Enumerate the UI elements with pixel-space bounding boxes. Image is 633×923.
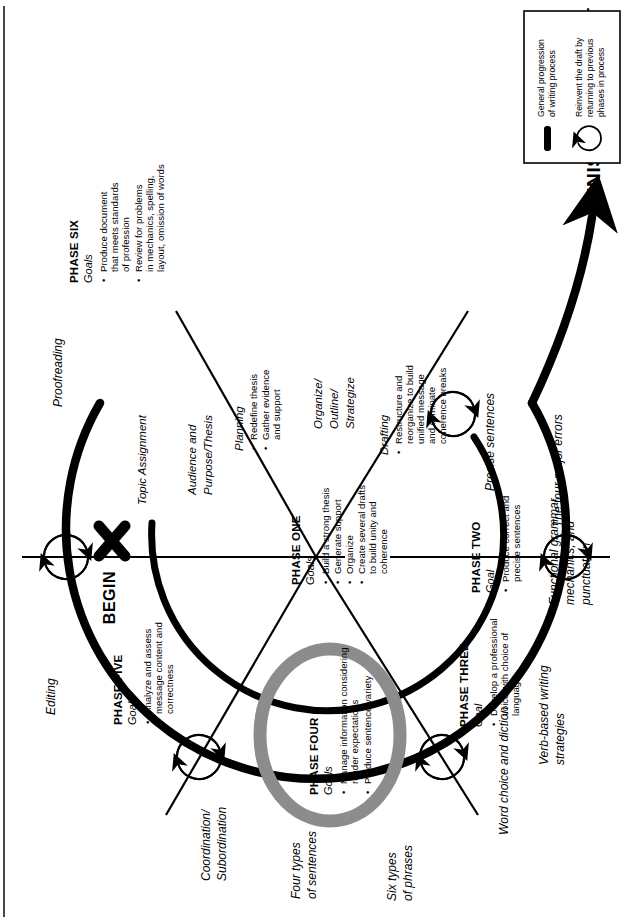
svg-text:coherence breaks: coherence breaks <box>437 368 448 444</box>
legend-item-progression-text: General progression of writing process <box>536 39 557 117</box>
svg-text:returning to previous: returning to previous <box>585 39 595 117</box>
writing-process-diagram: BEGIN FINISHED PRODUCT <box>0 0 633 923</box>
phase-three-title: PHASE THREE <box>458 643 470 727</box>
svg-text:unified message: unified message <box>415 374 426 444</box>
legend-item-reinvent-text: Reinvent the draft by returning to previ… <box>574 37 606 117</box>
drafting-bullets: •Restructure and reorganize to build uni… <box>393 365 448 454</box>
svg-text:•: • <box>362 791 373 794</box>
svg-text:Six types: Six types <box>385 852 399 901</box>
svg-text:reorganize to build: reorganize to build <box>404 365 415 444</box>
four-types-of-sentences-label: Four types of sentences <box>289 831 319 899</box>
begin-label: BEGIN <box>101 571 118 624</box>
svg-text:voice with choice of: voice with choice of <box>499 632 510 716</box>
thick-line-icon <box>544 126 551 151</box>
svg-text:of profession: of profession <box>120 217 131 272</box>
svg-text:•: • <box>338 791 349 794</box>
the-four-major-errors-label: The four major errors <box>551 414 565 527</box>
svg-text:of sentences: of sentences <box>305 831 319 899</box>
drafting-label: Drafting <box>378 414 390 455</box>
svg-text:Restructure and: Restructure and <box>393 376 404 444</box>
topic-assignment-label: Topic Assignment <box>136 414 148 505</box>
drafting-block: Drafting •Restructure and reorganize to … <box>378 365 448 455</box>
svg-text:Produce sentence variety: Produce sentence variety <box>362 676 373 784</box>
svg-text:•: • <box>133 279 144 282</box>
phase-six-goal-heading: Goals <box>82 254 94 283</box>
phase-one-goal-heading: Goals <box>304 556 316 585</box>
phase-six-block: PHASE SIX Goals • Produce document that … <box>68 164 166 283</box>
phase-five-block: PHASE FIVE Goal • Analyze and assess mes… <box>112 622 175 725</box>
svg-text:Redefine thesis: Redefine thesis <box>248 374 259 440</box>
svg-text:layout, omission of words: layout, omission of words <box>155 164 166 272</box>
svg-text:Manage information considering: Manage information considering <box>338 647 349 784</box>
legend: General progression of writing process R… <box>524 11 620 163</box>
svg-text:precise sentences: precise sentences <box>511 504 522 582</box>
phase-one-block: PHASE ONE Goals •Build a strong thesis •… <box>290 485 389 585</box>
svg-text:and support: and support <box>271 389 282 440</box>
svg-text:phases in process: phases in process <box>596 48 606 117</box>
svg-text:Gather evidence: Gather evidence <box>260 370 271 440</box>
svg-text:Audience and: Audience and <box>186 424 198 496</box>
svg-text:•: • <box>332 581 343 584</box>
finished-product-arrow <box>532 217 592 403</box>
precise-sentences-label: Precise sentences <box>483 393 497 491</box>
svg-text:language: language <box>510 677 521 716</box>
phase-five-goal-heading: Goal <box>126 701 138 725</box>
phase-four-goal-heading: Goals <box>322 766 334 795</box>
svg-text:Outline/: Outline/ <box>328 388 340 429</box>
svg-text:Organize: Organize <box>344 535 355 574</box>
svg-text:Verb-based writing: Verb-based writing <box>537 665 551 765</box>
editing-label: Editing <box>44 678 58 715</box>
svg-text:in mechanics, spelling,: in mechanics, spelling, <box>144 175 155 272</box>
phase-two-bullets: • Produce correct and precise sentences <box>500 496 522 592</box>
svg-text:•: • <box>142 721 153 724</box>
svg-text:Review for problems: Review for problems <box>133 184 144 272</box>
svg-text:General progression: General progression <box>536 39 546 117</box>
six-types-of-phrases-label: Six types of phrases <box>385 845 415 901</box>
svg-text:•: • <box>98 279 109 282</box>
svg-text:Develop a professional: Develop a professional <box>488 618 499 716</box>
svg-text:Analyze and assess: Analyze and assess <box>142 628 153 714</box>
phase-four-title: PHASE FOUR <box>308 717 320 795</box>
svg-text:Build a strong thesis: Build a strong thesis <box>320 487 331 574</box>
svg-text:of phrases: of phrases <box>401 845 415 901</box>
verb-based-writing-strategies-label: Verb-based writing strategies <box>537 665 567 765</box>
proofreading-label: Proofreading <box>51 338 65 407</box>
phase-six-title: PHASE SIX <box>68 220 80 283</box>
phase-six-bullets: • Produce document that meets standards … <box>98 164 166 282</box>
svg-text:Generate support: Generate support <box>332 499 343 574</box>
diagram-page: BEGIN FINISHED PRODUCT <box>0 0 633 923</box>
phase-one-title: PHASE ONE <box>290 515 302 585</box>
phase-five-title: PHASE FIVE <box>112 654 124 725</box>
phase-three-goal-heading: Goal <box>472 703 484 727</box>
word-choice-and-diction-label: Word choice and diction <box>497 707 511 835</box>
svg-text:message content and: message content and <box>153 622 164 714</box>
phase-two-title: PHASE TWO <box>470 522 482 593</box>
planning-bullets: •Redefine thesis •Gather evidence and su… <box>248 370 282 450</box>
svg-text:to build unity and: to build unity and <box>367 501 378 574</box>
svg-text:reader expectations: reader expectations <box>349 700 360 784</box>
svg-text:•: • <box>344 581 355 584</box>
svg-text:correctness: correctness <box>164 664 175 714</box>
svg-text:Organize/: Organize/ <box>312 377 324 429</box>
svg-text:and eliminate: and eliminate <box>426 387 437 444</box>
rotated-artwork: BEGIN FINISHED PRODUCT <box>0 0 633 923</box>
svg-text:Produce correct and: Produce correct and <box>500 496 511 582</box>
phase-four-highlight-ring <box>260 649 400 821</box>
svg-text:Subordination: Subordination <box>215 807 229 881</box>
svg-text:Four types: Four types <box>289 842 303 899</box>
begin-x-icon <box>99 526 125 556</box>
phase-two-goal-heading: Goal <box>484 569 496 593</box>
phase-five-bullets: • Analyze and assess message content and… <box>142 622 175 724</box>
phase-four-block: PHASE FOUR Goals • Manage information co… <box>308 647 373 795</box>
svg-text:Strategize: Strategize <box>344 377 356 429</box>
svg-text:Coordination/: Coordination/ <box>199 808 213 881</box>
phase-one-bullets: •Build a strong thesis •Generate support… <box>320 485 389 584</box>
svg-text:•: • <box>320 581 331 584</box>
svg-text:Create several drafts: Create several drafts <box>356 485 367 574</box>
svg-text:•: • <box>393 451 404 454</box>
svg-text:•: • <box>356 581 367 584</box>
planning-label: Planning <box>233 406 245 451</box>
svg-text:Reinvent the draft by: Reinvent the draft by <box>574 37 584 117</box>
svg-text:mechanics, and: mechanics, and <box>563 521 577 605</box>
svg-text:Produce document: Produce document <box>98 191 109 272</box>
